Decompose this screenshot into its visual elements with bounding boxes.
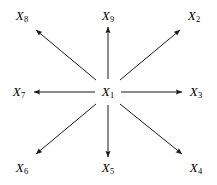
node-variable: X bbox=[188, 8, 196, 23]
node-variable: X bbox=[102, 160, 110, 175]
node-label-x8: X8 bbox=[16, 9, 29, 24]
edge-x1-to-x6 bbox=[36, 104, 96, 154]
node-subscript: 8 bbox=[24, 14, 29, 24]
node-label-x7: X7 bbox=[13, 85, 26, 100]
edge-x1-to-x2 bbox=[120, 30, 180, 80]
node-label-x4: X4 bbox=[190, 161, 203, 176]
node-variable: X bbox=[190, 160, 198, 175]
node-variable: X bbox=[16, 8, 24, 23]
node-label-x5: X5 bbox=[102, 161, 115, 176]
node-subscript: 7 bbox=[21, 90, 26, 100]
node-subscript: 5 bbox=[110, 166, 115, 176]
node-variable: X bbox=[16, 160, 24, 175]
node-label-x2: X2 bbox=[188, 9, 201, 24]
node-subscript: 2 bbox=[196, 14, 201, 24]
node-subscript: 6 bbox=[24, 166, 29, 176]
node-variable: X bbox=[102, 8, 110, 23]
node-subscript: 4 bbox=[198, 166, 203, 176]
node-label-x3: X3 bbox=[190, 85, 203, 100]
node-subscript: 3 bbox=[198, 90, 203, 100]
center-node-label-x1: X1 bbox=[102, 85, 115, 100]
node-label-x6: X6 bbox=[16, 161, 29, 176]
node-variable: X bbox=[102, 84, 110, 99]
node-subscript: 9 bbox=[110, 14, 115, 24]
node-variable: X bbox=[13, 84, 21, 99]
node-subscript: 1 bbox=[110, 90, 115, 100]
edge-x1-to-x4 bbox=[120, 104, 182, 154]
edge-x1-to-x8 bbox=[36, 30, 96, 80]
node-label-x9: X9 bbox=[102, 9, 115, 24]
node-variable: X bbox=[190, 84, 198, 99]
radial-graph-figure: X1X8X9X2X7X3X6X5X4 bbox=[0, 0, 217, 185]
